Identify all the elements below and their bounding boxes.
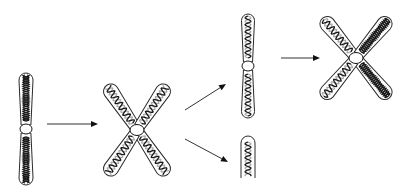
arm-3-strands xyxy=(321,62,353,99)
strand-dark xyxy=(321,62,353,99)
arm-1 xyxy=(133,81,173,131)
centromere xyxy=(242,61,254,71)
arm-bottom xyxy=(19,133,33,185)
centromere xyxy=(130,125,144,136)
arrowhead-icon xyxy=(218,84,226,90)
chromosome-replicated-x-second xyxy=(317,13,395,102)
arm-3 xyxy=(101,129,141,179)
arm-0-strands xyxy=(321,18,353,55)
arrow-replicated-x-to-daughter-fragment xyxy=(185,139,228,162)
arrow-shaft xyxy=(185,139,222,159)
arrow-unreplicated-to-replicated-x xyxy=(47,121,98,127)
arm-top xyxy=(19,73,33,125)
arm-top xyxy=(242,14,255,62)
centromere xyxy=(349,53,363,64)
arm-2-strands xyxy=(359,62,391,99)
arrowhead-icon xyxy=(91,121,98,127)
chromosome-daughter-fragment xyxy=(241,136,255,178)
chromosome-replicated-x xyxy=(101,81,174,179)
arm-1-strands xyxy=(359,18,391,55)
arm-bottom xyxy=(242,70,255,118)
centromere xyxy=(20,124,32,134)
chromosome-diagram xyxy=(0,0,400,187)
arrow-shaft xyxy=(185,88,220,110)
arrow-daughter-long-to-replicated-x-second xyxy=(281,55,320,61)
chromosome-unreplicated xyxy=(19,73,33,185)
chromosome-daughter-long xyxy=(242,14,255,118)
arrow-replicated-x-to-daughter-long xyxy=(185,84,226,110)
strand-dark xyxy=(321,18,353,55)
arrowhead-icon xyxy=(313,55,320,61)
strand-dark xyxy=(359,18,391,55)
strand-dark xyxy=(359,62,391,99)
